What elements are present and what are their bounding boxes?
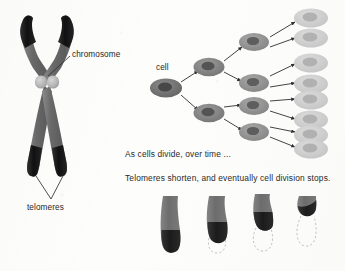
label-chromosome: chromosome <box>72 50 120 59</box>
telomere-stage-2 <box>207 196 228 253</box>
label-cell: cell <box>156 63 169 72</box>
lost-length-outline-stage-4 <box>297 216 316 246</box>
telomere-stage-1 <box>161 196 181 253</box>
lost-length-outline-stage-3 <box>253 228 272 251</box>
telomere-shortening-series <box>0 0 345 271</box>
telomere-stage-4 <box>297 196 316 246</box>
caption-line-2: Telomeres shorten, and eventually cell d… <box>125 173 330 183</box>
figure-canvas: chromosome telomeres cell As cells divid… <box>0 0 345 271</box>
label-telomeres: telomeres <box>27 203 64 212</box>
caption-line-1: As cells divide, over time ... <box>125 149 231 159</box>
telomere-stage-3 <box>253 194 273 251</box>
